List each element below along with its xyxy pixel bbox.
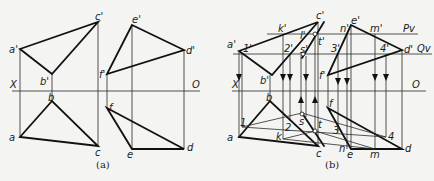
label-2: 2 [285, 122, 291, 133]
label-pv: Pv [403, 23, 416, 34]
label-e-prime: e' [132, 14, 141, 25]
label-4: 4 [388, 131, 394, 142]
arrow-down-icon [372, 74, 378, 81]
arrow-down-icon [383, 74, 389, 81]
label-t: t [318, 119, 323, 130]
triangle-def-front [107, 25, 184, 74]
label-m-prime: m' [370, 23, 383, 34]
label-m: m [370, 149, 380, 160]
label-d: d [405, 143, 412, 154]
arrow-down-icon [280, 74, 286, 81]
label-k: k [276, 131, 283, 142]
arrow-up-icon [298, 96, 304, 103]
figure-a: X O a' b' c' d' e' f' a b c d e f (a) [9, 11, 200, 170]
label-c-prime: c' [95, 11, 103, 22]
label-e-prime: e' [351, 15, 360, 26]
label-1-prime: 1' [243, 43, 252, 54]
label-a: a [227, 132, 233, 143]
label-s: s [299, 116, 304, 127]
label-e: e [347, 149, 353, 160]
label-3: 3 [333, 125, 339, 136]
arrow-up-icon [312, 96, 318, 103]
label-t-prime: t' [318, 36, 325, 47]
figure-b: X O Pv Qv [227, 10, 432, 170]
axis-o-label: O [192, 79, 200, 90]
arrow-down-icon [287, 74, 293, 81]
label-d: d [187, 142, 194, 153]
label-d-prime: d' [404, 44, 413, 55]
section-line-1-s [242, 113, 302, 127]
label-3-prime: 3' [331, 43, 340, 54]
label-2-prime: 2' [284, 43, 293, 54]
label-a: a [9, 132, 15, 143]
label-e: e [127, 149, 133, 160]
arrow-down-icon [303, 74, 309, 81]
label-b-prime: b' [260, 75, 269, 86]
label-1: 1 [240, 117, 246, 128]
axis-x-label: X [9, 79, 18, 90]
label-c: c [95, 147, 101, 158]
triangle-def-top [107, 108, 184, 149]
triangle-abc-front [20, 22, 98, 74]
label-s-prime: s' [300, 44, 308, 55]
label-qv: Qv [417, 43, 432, 54]
axis-o-label: O [412, 79, 420, 90]
arrow-down-icon [335, 78, 341, 85]
arrow-down-icon [344, 78, 350, 85]
descriptive-geometry-figure: X O a' b' c' d' e' f' a b c d e f (a) [0, 0, 434, 181]
label-d-prime: d' [186, 45, 195, 56]
label-k-prime: k' [278, 23, 287, 34]
label-b: b [266, 92, 272, 103]
label-n-prime: n' [340, 23, 349, 34]
label-f: f [329, 98, 334, 109]
label-c: c [316, 148, 322, 159]
caption-b: (b) [325, 159, 339, 170]
point-t [313, 129, 317, 133]
label-f-prime: f' [99, 69, 105, 80]
label-a-prime: a' [227, 39, 236, 50]
triangle-abc-top [20, 101, 98, 146]
label-b: b [48, 92, 54, 103]
caption-a: (a) [96, 159, 110, 170]
point-t-prime [313, 32, 317, 36]
label-b-prime: b' [40, 76, 49, 87]
label-4-prime: 4' [380, 43, 389, 54]
label-f-prime: f' [319, 70, 325, 81]
label-n: n [339, 143, 345, 154]
label-l-prime: l' [300, 30, 306, 41]
label-a-prime: a' [9, 44, 18, 55]
label-c-prime: c' [316, 10, 324, 21]
